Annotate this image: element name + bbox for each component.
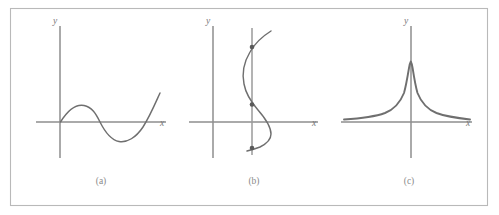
panel-b-caption: (b) — [248, 176, 259, 187]
panel-a-y-axis-label: y — [52, 16, 58, 26]
panel-b-intersection-dot-1 — [250, 45, 255, 50]
panel-c-x-axis-label: x — [465, 118, 471, 128]
panel-b-y-axis-label: y — [205, 16, 211, 26]
three-panel-graph-figure: y x (a) y x (b) y x (c) — [0, 0, 499, 215]
panel-b-x-axis-label: x — [311, 118, 317, 128]
panel-a-x-axis-label: x — [159, 118, 165, 128]
panel-a-caption: (a) — [96, 176, 107, 187]
panel-b-intersection-dot-3 — [250, 146, 255, 151]
figure-container: y x (a) y x (b) y x (c) — [0, 0, 499, 215]
panel-c-caption: (c) — [404, 176, 415, 187]
panel-c-y-axis-label: y — [403, 16, 409, 26]
panel-b-intersection-dot-2 — [250, 102, 255, 107]
